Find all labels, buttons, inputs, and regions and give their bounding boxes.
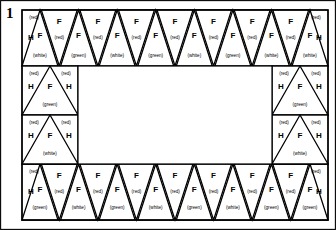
- left-strip-cell-left-color: (red): [29, 120, 39, 125]
- left-strip-cell-center-letter: F: [48, 131, 53, 140]
- bottom-down-color: (red): [286, 189, 296, 194]
- top-down-letter: F: [134, 17, 139, 26]
- bottom-up-color: (white): [149, 205, 163, 210]
- bottom-left-corner-color: (red): [29, 169, 39, 174]
- right-strip-cell-left-letter: H: [278, 82, 284, 91]
- bottom-down-letter: F: [250, 171, 255, 180]
- right-strip-cell-left-letter: H: [278, 131, 284, 140]
- bottom-up-letter: F: [192, 185, 197, 194]
- right-strip-cell-bottom-color: (green): [293, 102, 308, 107]
- bottom-down-letter: F: [95, 171, 100, 180]
- bottom-up-letter: F: [269, 185, 274, 194]
- top-down-letter: F: [211, 17, 216, 26]
- top-left-corner-letter: H: [28, 33, 34, 42]
- top-border-strip: F(white)F(green)F(white)F(green)F(white)…: [22, 10, 328, 66]
- bottom-up-color: (green): [33, 205, 48, 210]
- center-void: [78, 66, 272, 164]
- top-up-letter: F: [230, 31, 235, 40]
- bottom-up-color: (white): [72, 205, 86, 210]
- left-strip-cell-right-letter: H: [66, 131, 72, 140]
- right-strip-cell-bottom-color: (white): [293, 151, 307, 156]
- right-strip-cell-left-color: (red): [279, 120, 289, 125]
- bottom-up-letter: F: [308, 185, 313, 194]
- left-strip-cell-right-letter: H: [66, 82, 72, 91]
- top-down-color: (red): [247, 35, 257, 40]
- left-strip-cell-bottom-color: (white): [43, 151, 57, 156]
- bottom-right-corner-color: (red): [311, 169, 321, 174]
- top-down-color: (red): [132, 35, 142, 40]
- bottom-left-corner-letter: H: [28, 187, 34, 196]
- top-up-color: (green): [148, 53, 163, 58]
- right-strip-cell-left-color: (red): [279, 71, 289, 76]
- bottom-up-color: (white): [226, 205, 240, 210]
- bottom-up-letter: F: [76, 185, 81, 194]
- right-strip-cell-right-color: (red): [311, 71, 321, 76]
- top-down-color: (red): [170, 35, 180, 40]
- figure-number: 1: [6, 6, 14, 21]
- right-strip-cell-right-color: (red): [311, 120, 321, 125]
- left-strip-cell-right-color: (red): [61, 120, 71, 125]
- bottom-border-strip: F(green)F(white)F(green)F(white)F(green)…: [22, 164, 328, 220]
- bottom-down-color: (red): [132, 189, 142, 194]
- bottom-down-color: (red): [247, 189, 257, 194]
- left-strip-cell-right-color: (red): [61, 71, 71, 76]
- top-down-letter: F: [173, 17, 178, 26]
- bottom-up-letter: F: [230, 185, 235, 194]
- bottom-up-letter: F: [153, 185, 158, 194]
- top-down-letter: F: [57, 17, 62, 26]
- bottom-down-color: (red): [209, 189, 219, 194]
- top-up-letter: F: [153, 31, 158, 40]
- left-strip-cell-left-letter: H: [28, 131, 34, 140]
- figure-diagram: 1 F(white)F(green)F(white)F(green)F(whit…: [0, 0, 336, 230]
- right-strip-cell-center-letter: F: [298, 82, 303, 91]
- left-border-strip: HFH(red)(red)(green)HFH(red)(red)(white): [22, 66, 78, 164]
- right-strip-cell-right-letter: H: [316, 131, 322, 140]
- top-up-letter: F: [269, 31, 274, 40]
- top-up-color: (white): [110, 53, 124, 58]
- top-left-corner-color: (red): [29, 15, 39, 20]
- bottom-up-color: (green): [303, 205, 318, 210]
- bottom-down-letter: F: [57, 171, 62, 180]
- top-up-letter: F: [308, 31, 313, 40]
- top-down-letter: F: [250, 17, 255, 26]
- right-strip-cell-right-letter: H: [316, 82, 322, 91]
- top-up-letter: F: [76, 31, 81, 40]
- top-up-color: (green): [225, 53, 240, 58]
- top-down-letter: F: [95, 17, 100, 26]
- right-border-strip: HFH(red)(red)(green)HFH(red)(red)(white): [272, 66, 328, 164]
- top-up-letter: F: [115, 31, 120, 40]
- bottom-down-color: (red): [93, 189, 103, 194]
- bottom-down-letter: F: [173, 171, 178, 180]
- top-down-color: (red): [209, 35, 219, 40]
- quilt-border-svg: F(white)F(green)F(white)F(green)F(white)…: [0, 0, 336, 230]
- top-up-color: (white): [33, 53, 47, 58]
- top-up-color: (white): [303, 53, 317, 58]
- top-up-color: (green): [71, 53, 86, 58]
- bottom-up-color: (green): [187, 205, 202, 210]
- bottom-right-corner-letter: H: [316, 187, 322, 196]
- bottom-up-letter: F: [38, 185, 43, 194]
- bottom-up-color: (green): [264, 205, 279, 210]
- bottom-down-color: (red): [54, 189, 64, 194]
- top-down-color: (red): [54, 35, 64, 40]
- bottom-down-color: (red): [170, 189, 180, 194]
- left-strip-cell-center-letter: F: [48, 82, 53, 91]
- bottom-down-letter: F: [134, 171, 139, 180]
- top-down-color: (red): [286, 35, 296, 40]
- right-strip-cell-center-letter: F: [298, 131, 303, 140]
- left-strip-cell-left-color: (red): [29, 71, 39, 76]
- top-up-letter: F: [38, 31, 43, 40]
- top-right-corner-color: (red): [311, 15, 321, 20]
- left-strip-cell-bottom-color: (green): [43, 102, 58, 107]
- left-strip-cell-left-letter: H: [28, 82, 34, 91]
- top-up-letter: F: [192, 31, 197, 40]
- bottom-up-color: (green): [110, 205, 125, 210]
- bottom-down-letter: F: [288, 171, 293, 180]
- top-right-corner-letter: H: [316, 33, 322, 42]
- bottom-down-letter: F: [211, 171, 216, 180]
- top-down-color: (red): [93, 35, 103, 40]
- top-up-color: (white): [187, 53, 201, 58]
- bottom-up-letter: F: [115, 185, 120, 194]
- top-down-letter: F: [288, 17, 293, 26]
- top-up-color: (white): [265, 53, 279, 58]
